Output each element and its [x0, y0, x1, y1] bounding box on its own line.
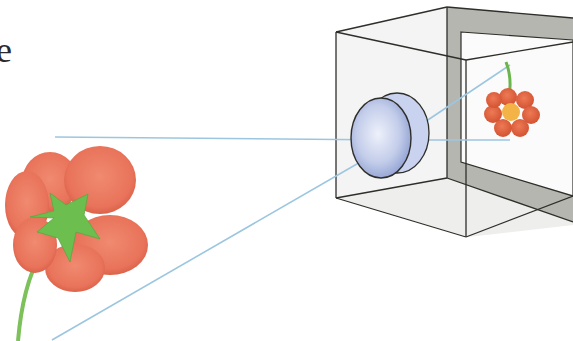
- object-flower: [5, 146, 148, 341]
- lens-diagram-svg: [0, 0, 573, 341]
- diagram-stage: e: [0, 0, 573, 341]
